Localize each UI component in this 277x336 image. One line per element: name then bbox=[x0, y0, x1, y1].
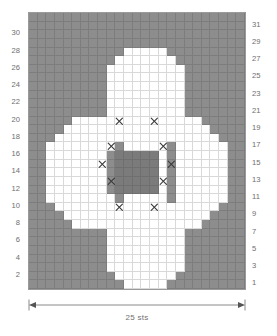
cell-petal bbox=[124, 91, 133, 100]
cell-background bbox=[202, 255, 211, 264]
cell-background bbox=[55, 280, 64, 289]
cell-core bbox=[133, 151, 142, 160]
cell-petal bbox=[133, 263, 142, 272]
cell-background bbox=[150, 13, 159, 22]
row-number-8: 8 bbox=[16, 219, 20, 228]
cell-background bbox=[98, 13, 107, 22]
cell-background bbox=[38, 56, 47, 65]
cell-petal bbox=[46, 151, 55, 160]
cell-background bbox=[193, 263, 202, 272]
row-number-27: 27 bbox=[252, 55, 260, 64]
cell-background bbox=[202, 108, 211, 117]
cell-core bbox=[150, 160, 159, 169]
cell-background bbox=[185, 237, 194, 246]
cell-background bbox=[202, 91, 211, 100]
cell-background bbox=[81, 56, 90, 65]
cell-background bbox=[29, 272, 38, 281]
cell-background bbox=[89, 22, 98, 31]
cell-petal bbox=[124, 117, 133, 126]
cell-petal bbox=[193, 186, 202, 195]
cell-background bbox=[185, 272, 194, 281]
cell-petal bbox=[193, 168, 202, 177]
cell-background bbox=[167, 160, 176, 169]
cell-petal bbox=[176, 125, 185, 134]
cell-background bbox=[64, 56, 73, 65]
cell-petal bbox=[124, 237, 133, 246]
cell-petal bbox=[81, 203, 90, 212]
cell-background bbox=[141, 39, 150, 48]
cell-petal bbox=[150, 65, 159, 74]
row-number-31: 31 bbox=[252, 21, 260, 30]
cell-background bbox=[210, 91, 219, 100]
cell-petal bbox=[159, 246, 168, 255]
cell-petal bbox=[141, 117, 150, 126]
cell-background bbox=[81, 229, 90, 238]
cell-background bbox=[89, 30, 98, 39]
cell-petal bbox=[124, 246, 133, 255]
cell-background bbox=[150, 22, 159, 31]
cell-petal bbox=[124, 125, 133, 134]
cell-background bbox=[193, 246, 202, 255]
cell-petal bbox=[124, 65, 133, 74]
cell-petal bbox=[141, 229, 150, 238]
cell-petal bbox=[89, 168, 98, 177]
cell-petal bbox=[219, 151, 228, 160]
cell-background bbox=[55, 229, 64, 238]
cell-background bbox=[107, 186, 116, 195]
cell-background bbox=[176, 22, 185, 31]
cell-petal bbox=[98, 134, 107, 143]
cell-background bbox=[89, 99, 98, 108]
cell-background bbox=[46, 65, 55, 74]
cell-petal bbox=[141, 65, 150, 74]
cell-petal bbox=[210, 177, 219, 186]
cell-background bbox=[167, 168, 176, 177]
cell-background bbox=[29, 177, 38, 186]
cell-background bbox=[219, 255, 228, 264]
cell-background bbox=[210, 272, 219, 281]
cell-petal bbox=[98, 220, 107, 229]
cell-petal bbox=[115, 65, 124, 74]
cell-background bbox=[29, 125, 38, 134]
cell-petal bbox=[98, 117, 107, 126]
cell-background bbox=[98, 48, 107, 57]
cell-core bbox=[124, 186, 133, 195]
cell-petal bbox=[133, 220, 142, 229]
cell-petal bbox=[98, 194, 107, 203]
cell-petal bbox=[55, 203, 64, 212]
cell-background bbox=[38, 65, 47, 74]
cell-background bbox=[219, 134, 228, 143]
cell-background bbox=[55, 255, 64, 264]
cell-core bbox=[150, 151, 159, 160]
cell-background bbox=[219, 263, 228, 272]
cell-petal bbox=[176, 142, 185, 151]
cell-petal bbox=[176, 82, 185, 91]
cell-petal bbox=[176, 177, 185, 186]
cell-petal bbox=[98, 211, 107, 220]
cell-petal bbox=[107, 220, 116, 229]
cell-background bbox=[98, 56, 107, 65]
cell-background bbox=[107, 48, 116, 57]
cell-petal bbox=[133, 142, 142, 151]
cell-background bbox=[29, 82, 38, 91]
cell-background bbox=[29, 229, 38, 238]
cell-background bbox=[98, 272, 107, 281]
cell-petal bbox=[107, 237, 116, 246]
cell-background bbox=[210, 117, 219, 126]
cell-petal bbox=[167, 125, 176, 134]
cell-core bbox=[141, 160, 150, 169]
cell-background bbox=[236, 220, 245, 229]
cell-petal bbox=[89, 151, 98, 160]
cell-petal bbox=[159, 91, 168, 100]
cell-background bbox=[210, 73, 219, 82]
cell-petal bbox=[89, 211, 98, 220]
cell-background bbox=[185, 56, 194, 65]
cell-background bbox=[64, 229, 73, 238]
cell-petal bbox=[141, 280, 150, 289]
cell-background bbox=[236, 160, 245, 169]
cell-petal bbox=[133, 56, 142, 65]
cell-background bbox=[202, 65, 211, 74]
cell-background bbox=[210, 125, 219, 134]
cell-background bbox=[55, 99, 64, 108]
row-number-7: 7 bbox=[252, 228, 256, 237]
cell-background bbox=[38, 125, 47, 134]
